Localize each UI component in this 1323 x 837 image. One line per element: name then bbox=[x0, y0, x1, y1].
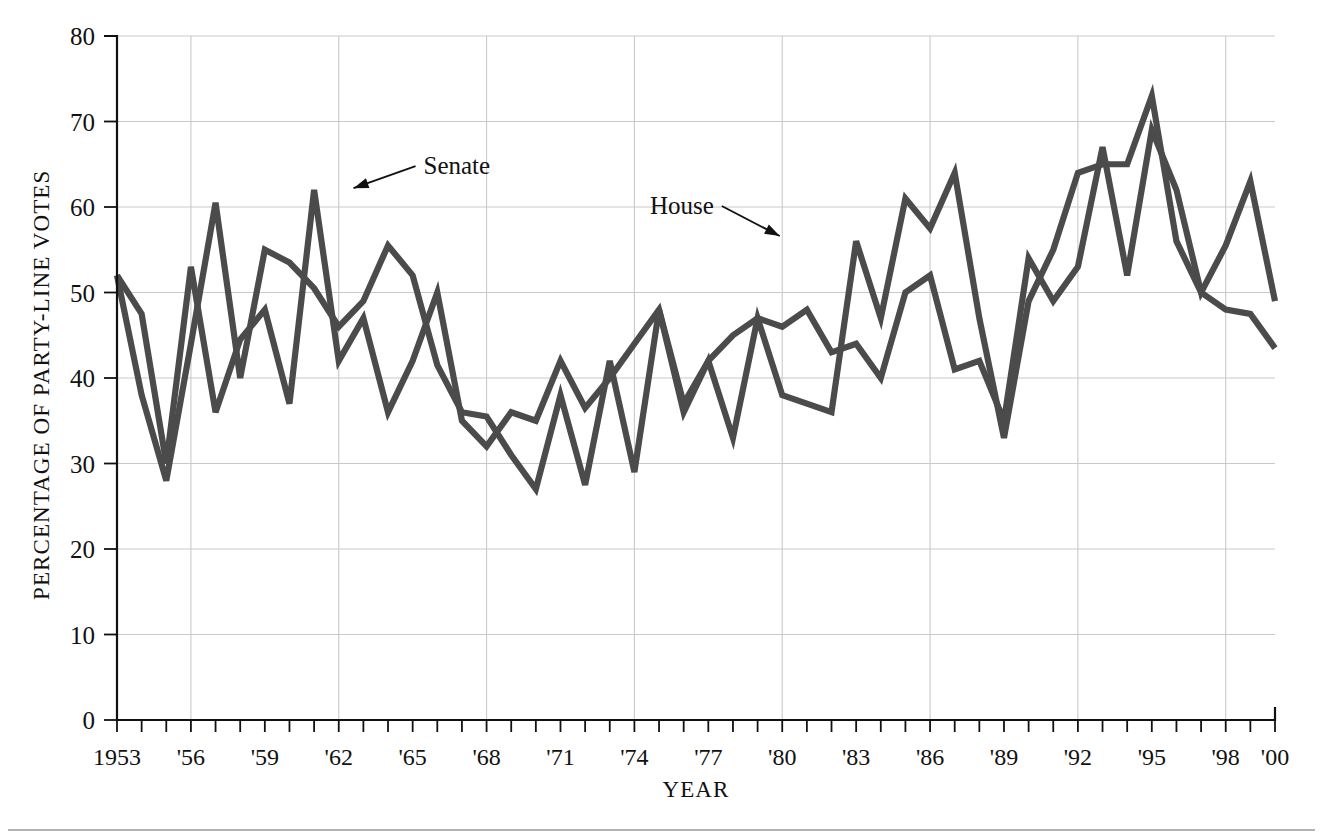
party-line-votes-line-chart: 01020304050607080 1953'56'59'62'65'68'71… bbox=[0, 0, 1323, 837]
y-tick-label-20: 20 bbox=[70, 536, 95, 563]
x-tick-label-86: '86 bbox=[916, 744, 944, 770]
y-tick-label-30: 30 bbox=[70, 451, 95, 478]
x-tick-label-83: '83 bbox=[842, 744, 870, 770]
x-tick-label-95: '95 bbox=[1138, 744, 1166, 770]
x-tick-label-00: '00 bbox=[1261, 744, 1289, 770]
y-tick-label-40: 40 bbox=[70, 365, 95, 392]
x-tick-label-56: '56 bbox=[177, 744, 205, 770]
y-tick-label-60: 60 bbox=[70, 194, 95, 221]
y-tick-label-10: 10 bbox=[70, 622, 95, 649]
y-tick-label-80: 80 bbox=[70, 23, 95, 50]
annotation-label-senate: Senate bbox=[424, 152, 491, 179]
x-tick-label-98: '98 bbox=[1212, 744, 1240, 770]
x-tick-label-59: '59 bbox=[251, 744, 279, 770]
x-tick-label-74: '74 bbox=[620, 744, 648, 770]
x-tick-label-77: '77 bbox=[694, 744, 722, 770]
x-axis-title: YEAR bbox=[662, 777, 729, 802]
x-tick-label-89: '89 bbox=[990, 744, 1018, 770]
y-axis-title: PERCENTAGE OF PARTY-LINE VOTES bbox=[29, 170, 54, 600]
x-tick-label-62: '62 bbox=[325, 744, 353, 770]
x-tick-label-80: '80 bbox=[768, 744, 796, 770]
x-tick-label-68: '68 bbox=[472, 744, 500, 770]
x-tick-label-65: '65 bbox=[398, 744, 426, 770]
x-tick-label-71: '71 bbox=[546, 744, 574, 770]
y-tick-label-70: 70 bbox=[70, 109, 95, 136]
y-tick-label-50: 50 bbox=[70, 280, 95, 307]
x-tick-label-1953: 1953 bbox=[93, 744, 141, 770]
x-tick-label-92: '92 bbox=[1064, 744, 1092, 770]
y-tick-label-0: 0 bbox=[83, 707, 96, 734]
chart-background bbox=[0, 0, 1323, 837]
chart-figure: 01020304050607080 1953'56'59'62'65'68'71… bbox=[0, 0, 1323, 837]
annotation-label-house: House bbox=[650, 192, 714, 219]
y-axis-tick-labels: 01020304050607080 bbox=[70, 23, 95, 734]
